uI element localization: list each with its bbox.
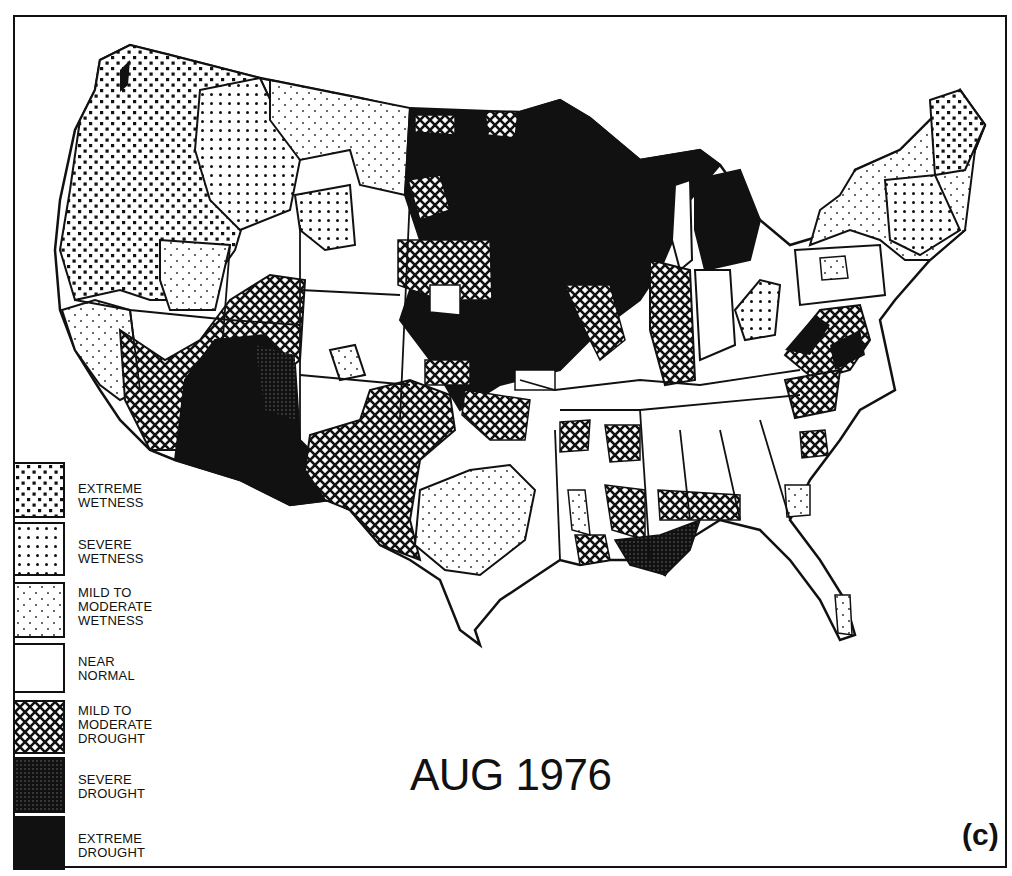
region-pa-wet (820, 256, 848, 280)
legend-label-mild-moderate-wetness: MILD TO MODERATE WETNESS (78, 586, 152, 628)
legend-label-near-normal: NEAR NORMAL (78, 655, 135, 683)
legend-label-severe-drought: SEVERE DROUGHT (78, 773, 145, 801)
region-ks-crosshatch (425, 360, 470, 385)
panel-label: (c) (962, 818, 999, 852)
region-ms-crosshatch (605, 425, 640, 462)
region-nd-crosshatch-2 (485, 112, 518, 138)
region-al-crosshatch (658, 490, 740, 520)
swatch-severe-wetness (13, 522, 65, 576)
region-fl-wet (835, 595, 852, 635)
region-michigan (695, 170, 760, 270)
region-maine (930, 90, 985, 175)
legend-label-extreme-drought: EXTREME DROUGHT (78, 832, 145, 860)
region-nd-crosshatch (415, 115, 455, 135)
legend-label-extreme-wetness: EXTREME WETNESS (78, 482, 144, 510)
region-ar-crosshatch (560, 420, 590, 452)
swatch-severe-drought (13, 757, 65, 813)
swatch-extreme-wetness (13, 462, 65, 518)
legend-label-mild-moderate-drought: MILD TO MODERATE DROUGHT (78, 704, 152, 746)
swatch-near-normal (13, 643, 65, 693)
region-sc-crosshatch (800, 430, 828, 458)
region-indiana-white (695, 270, 735, 360)
legend-label-severe-wetness: SEVERE WETNESS (78, 538, 144, 566)
swatch-mild-moderate-wetness (13, 582, 65, 638)
region-ne-white (430, 285, 460, 315)
swatch-mild-moderate-drought (13, 700, 65, 754)
region-ga-wet (785, 485, 810, 517)
map-title: AUG 1976 (410, 750, 611, 800)
region-la-west (575, 535, 610, 565)
swatch-extreme-drought (13, 816, 65, 870)
